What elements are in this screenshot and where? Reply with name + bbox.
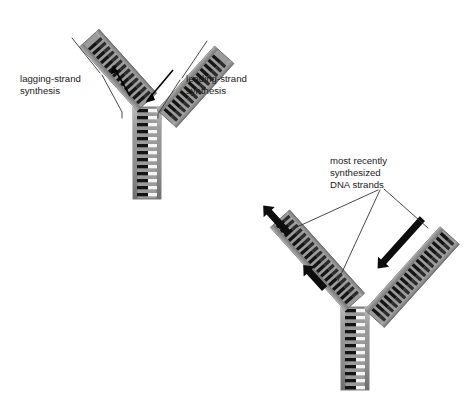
most-recently-label-line3: DNA strands <box>330 179 384 190</box>
parental-duplex-stem-1 <box>133 107 161 199</box>
leading-strand-label: leading-strand synthesis <box>186 73 247 96</box>
panel-left-fork: lagging-strand synthesis leading-strand … <box>20 29 247 199</box>
most-recently-label-line1: most recently <box>330 155 387 166</box>
leader-line-2 <box>338 190 380 281</box>
panel-right-fork: most recently synthesized DNA strands <box>258 155 460 390</box>
figure-canvas: lagging-strand synthesis leading-strand … <box>0 0 465 400</box>
leader-line-3 <box>384 189 428 228</box>
lagging-strand-label-line2: synthesis <box>20 85 60 96</box>
dna-replication-figure: lagging-strand synthesis leading-strand … <box>0 0 465 400</box>
most-recently-label-line2: synthesized <box>330 167 381 178</box>
lagging-template-arm-1 <box>80 29 157 110</box>
leading-strand-label-line1: leading-strand <box>186 73 247 84</box>
leading-template-arm-2 <box>365 227 459 328</box>
parental-duplex-stem-2 <box>341 307 369 390</box>
lagging-strand-label: lagging-strand synthesis <box>20 73 81 96</box>
lagging-strand-label-line1: lagging-strand <box>20 73 81 84</box>
leading-strand-label-line2: synthesis <box>186 85 226 96</box>
most-recently-synthesized-label: most recently synthesized DNA strands <box>330 155 387 190</box>
